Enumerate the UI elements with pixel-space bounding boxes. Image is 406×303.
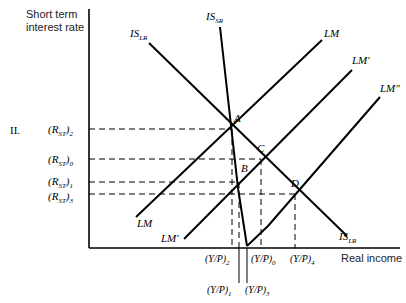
label-lm-prime: LM′ xyxy=(351,54,370,66)
ytick-r2: (RST)2 xyxy=(48,123,73,138)
label-lm-bottom: LM xyxy=(136,217,153,229)
point-b: B xyxy=(241,162,248,174)
xtick-y4: (Y/P)4 xyxy=(290,253,315,267)
label-lm-prime-bottom: LM′ xyxy=(160,232,179,244)
xtick-y3: (Y/P)3 xyxy=(245,284,270,298)
label-lm-double-prime: LM″ xyxy=(379,82,400,94)
lm-prime-curve xyxy=(184,70,352,239)
is-sr-curve xyxy=(220,27,247,246)
y-axis-title-line1: Short term xyxy=(26,8,77,20)
is-lm-diagram: ISLR ISSR LM LM′ LM″ LM LM′ ISLR A B C D… xyxy=(0,0,406,303)
xtick-y2: (Y/P)2 xyxy=(205,253,230,267)
label-is-lr: ISLR xyxy=(129,27,148,42)
label-is-lr-bottom: ISLR xyxy=(338,230,357,245)
point-a: A xyxy=(233,112,241,124)
point-c: C xyxy=(257,142,265,154)
point-d: D xyxy=(290,177,299,189)
ytick-r3: (RST)3 xyxy=(48,190,73,205)
label-is-sr: ISSR xyxy=(205,10,224,25)
x-axis-title: Real income xyxy=(341,252,402,264)
lm-double-prime-curve xyxy=(247,97,380,246)
ytick-r0: (RST)0 xyxy=(48,153,73,168)
is-lr-curve xyxy=(149,43,347,236)
y-axis-title-line2: interest rate xyxy=(26,21,84,33)
panel-label: II. xyxy=(10,124,20,136)
xtick-y1: (Y/P)1 xyxy=(207,284,232,298)
xtick-y0: (Y/P)0 xyxy=(251,253,276,267)
ytick-r1: (RST)1 xyxy=(48,175,73,190)
label-lm: LM xyxy=(323,27,340,39)
